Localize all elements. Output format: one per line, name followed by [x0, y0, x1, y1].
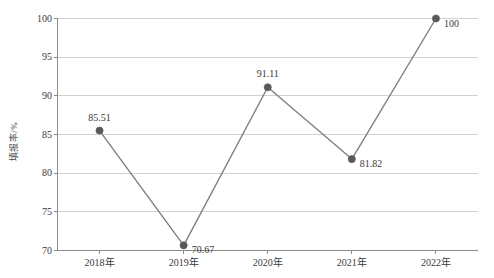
x-axis-tick-label: 2021年 [317, 257, 387, 269]
line-path [100, 19, 436, 246]
data-point-marker [264, 84, 271, 91]
plot-canvas [0, 0, 494, 278]
x-axis-tick-label: 2022年 [401, 257, 471, 269]
data-point-label: 70.67 [192, 245, 215, 255]
data-point-label: 100 [444, 19, 459, 29]
data-point-marker [96, 127, 103, 134]
data-point-marker [348, 155, 355, 162]
data-point-label: 81.82 [360, 159, 383, 169]
x-axis-tick-marks [100, 251, 436, 255]
line-chart: 填报率/% 707580859095100 2018年2019年2020年202… [0, 0, 494, 278]
x-axis-tick-label: 2020年 [233, 257, 303, 269]
series-markers [96, 15, 440, 249]
x-axis-tick-label: 2018年 [65, 257, 135, 269]
series-line [100, 19, 436, 246]
data-point-label: 91.11 [257, 69, 279, 79]
data-point-label: 85.51 [88, 113, 111, 123]
data-point-marker [180, 242, 187, 249]
x-axis-tick-label: 2019年 [149, 257, 219, 269]
data-point-marker [432, 15, 439, 22]
